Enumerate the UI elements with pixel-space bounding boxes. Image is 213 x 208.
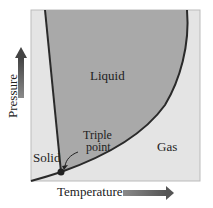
triple-point-label-line2: point — [86, 141, 111, 153]
liquid-label: Liquid — [90, 70, 125, 82]
temperature-arrow-right-icon — [166, 186, 174, 200]
x-axis-label: Temperature — [57, 186, 123, 198]
phase-diagram — [0, 0, 213, 208]
y-axis-label: Pressure — [5, 74, 21, 118]
solid-label: Solid — [33, 152, 60, 164]
pressure-arrow-up-icon — [15, 47, 27, 58]
triple-point-marker — [58, 169, 65, 176]
temperature-arrow-shaft — [123, 190, 166, 196]
gas-label: Gas — [157, 141, 177, 153]
